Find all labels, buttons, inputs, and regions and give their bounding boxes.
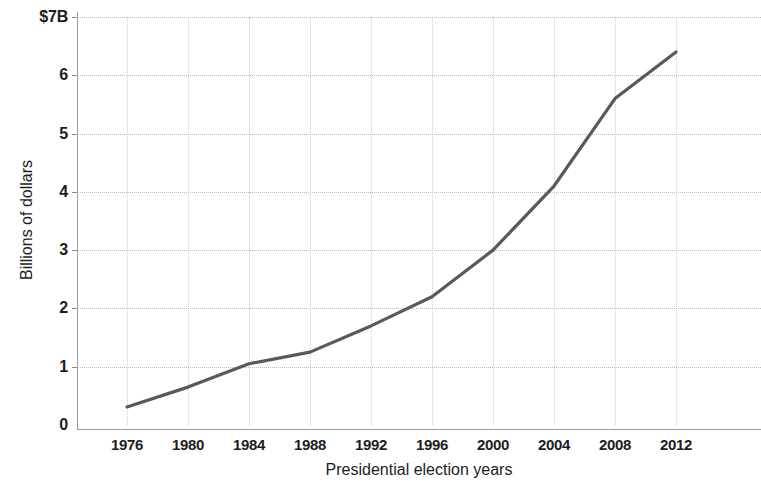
y-tick-mark-7 bbox=[72, 17, 77, 18]
y-axis-title-text: Billions of dollars bbox=[18, 160, 36, 280]
x-tick-label-1992: 1992 bbox=[355, 437, 387, 453]
x-tick-label-2004: 2004 bbox=[538, 437, 570, 453]
y-tick-label-4: 4 bbox=[0, 184, 68, 200]
y-tick-mark-4 bbox=[72, 192, 77, 193]
x-tick-label-1996: 1996 bbox=[416, 437, 448, 453]
y-tick-label-1: 1 bbox=[0, 359, 68, 375]
y-tick-label-7: $7B bbox=[0, 9, 68, 25]
series-line bbox=[77, 17, 761, 425]
y-tick-mark-6 bbox=[72, 75, 77, 76]
y-tick-label-6: 6 bbox=[0, 67, 68, 83]
y-tick-label-2: 2 bbox=[0, 300, 68, 316]
line-chart: Billions of dollars 0123456$7B 197619801… bbox=[0, 0, 761, 491]
x-tick-label-1976: 1976 bbox=[111, 437, 143, 453]
x-tick-label-1980: 1980 bbox=[172, 437, 204, 453]
x-tick-label-1988: 1988 bbox=[294, 437, 326, 453]
y-tick-mark-5 bbox=[72, 134, 77, 135]
y-tick-label-3: 3 bbox=[0, 242, 68, 258]
x-axis-line bbox=[77, 429, 761, 430]
y-tick-mark-2 bbox=[72, 308, 77, 309]
y-tick-mark-3 bbox=[72, 250, 77, 251]
plot-area bbox=[77, 17, 761, 425]
x-tick-label-2008: 2008 bbox=[599, 437, 631, 453]
x-tick-label-1984: 1984 bbox=[233, 437, 265, 453]
y-tick-label-5: 5 bbox=[0, 126, 68, 142]
series-polyline bbox=[127, 52, 676, 407]
x-tick-label-2000: 2000 bbox=[477, 437, 509, 453]
x-tick-label-2012: 2012 bbox=[660, 437, 692, 453]
y-tick-mark-1 bbox=[72, 367, 77, 368]
x-axis-title: Presidential election years bbox=[77, 461, 761, 479]
y-tick-label-0: 0 bbox=[0, 417, 68, 433]
